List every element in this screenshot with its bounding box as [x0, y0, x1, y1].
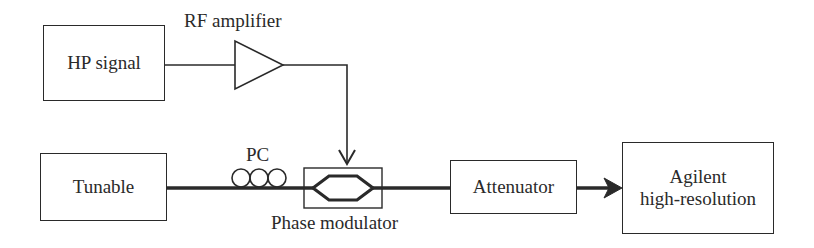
tunable-label: Tunable	[73, 176, 135, 198]
hp-signal-label: HP signal	[67, 52, 141, 74]
rf-amplifier-triangle-icon	[235, 41, 283, 89]
agilent-label-line1: Agilent	[670, 166, 727, 188]
attenuator-block: Attenuator	[450, 160, 577, 214]
tunable-block: Tunable	[40, 153, 167, 221]
rf-amplifier-label: RF amplifier	[184, 10, 282, 32]
amplifier-to-modulator-wire	[283, 65, 347, 163]
pc-label: PC	[246, 144, 269, 166]
phase-modulator-label: Phase modulator	[271, 212, 398, 234]
agilent-block: Agilent high-resolution	[622, 142, 774, 234]
setup-diagram: HP signal Tunable Attenuator Agilent hig…	[0, 0, 814, 248]
attenuator-label: Attenuator	[473, 176, 554, 198]
agilent-label-line2: high-resolution	[640, 188, 756, 210]
mach-zehnder-waveguide-icon	[313, 176, 373, 200]
polarization-controller-coils-icon	[232, 169, 286, 187]
hp-signal-block: HP signal	[43, 25, 165, 101]
phase-modulator-box	[304, 168, 382, 208]
